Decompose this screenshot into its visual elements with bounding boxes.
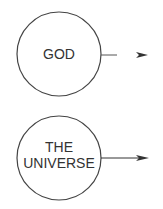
universe-label-line-1: THE xyxy=(17,139,101,155)
universe-label-line-2: UNIVERSE xyxy=(17,155,101,171)
universe-node-label: THE UNIVERSE xyxy=(17,139,101,171)
god-label-line: GOD xyxy=(43,46,75,62)
diagram-canvas xyxy=(0,0,163,209)
god-edge-arrowhead-icon xyxy=(136,52,148,58)
god-node-label: GOD xyxy=(17,46,101,62)
